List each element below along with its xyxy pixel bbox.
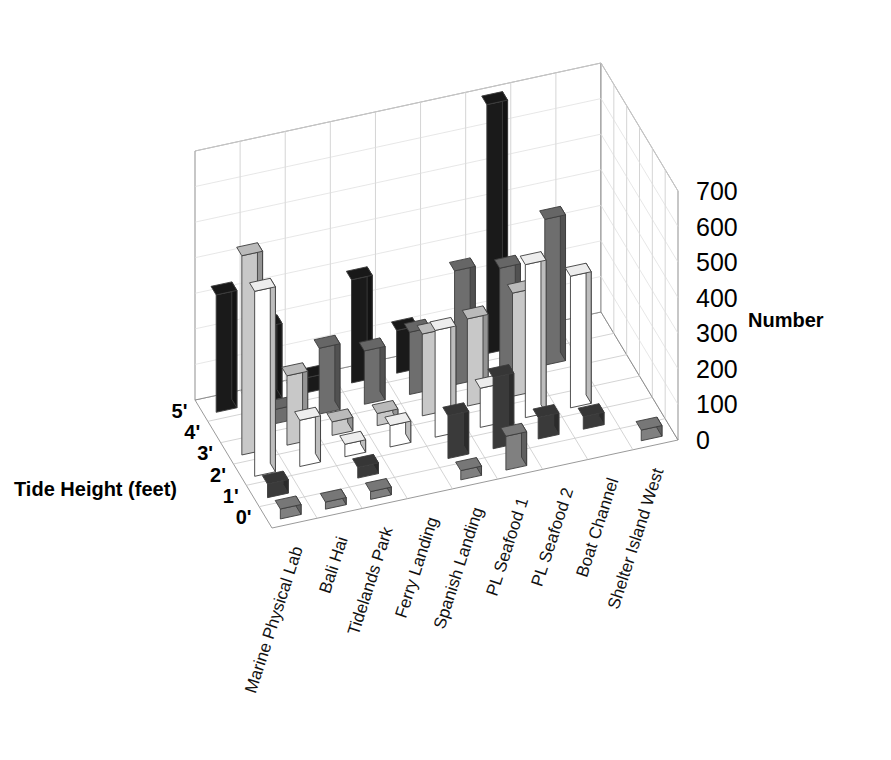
x-category-label: PL Seafood 1: [482, 495, 532, 598]
z-tick-label: 200: [696, 355, 738, 383]
y-tick-label: 5': [172, 400, 188, 422]
z-tick-label: 400: [696, 284, 738, 312]
chart-canvas: 7006005004003002001000 0'1'2'3'4'5' Mari…: [0, 0, 891, 760]
x-category-label: Tidelands Park: [344, 524, 397, 638]
y-axis-title: Tide Height (feet): [14, 478, 177, 500]
x-category-label: Bali Hai: [316, 534, 352, 596]
z-tick-label: 700: [696, 177, 738, 205]
bar-chart-3d: 7006005004003002001000 0'1'2'3'4'5' Mari…: [0, 0, 891, 760]
z-tick-label: 600: [696, 213, 738, 241]
y-tick-label: 4': [184, 421, 200, 443]
z-axis-ticks: 7006005004003002001000: [696, 177, 738, 454]
x-category-label: Ferry Landing: [391, 515, 441, 621]
z-tick-label: 300: [696, 319, 738, 347]
z-tick-label: 0: [696, 426, 710, 454]
x-category-label: Boat Channel: [572, 476, 622, 580]
x-category-label: Marine Physical Lab: [241, 544, 306, 695]
y-tick-label: 0': [236, 506, 252, 528]
x-category-label: PL Seafood 2: [528, 485, 578, 588]
z-axis-title: Number: [748, 309, 824, 331]
y-tick-label: 3': [197, 442, 213, 464]
z-tick-label: 100: [696, 390, 738, 418]
z-tick-label: 500: [696, 248, 738, 276]
y-tick-label: 1': [223, 485, 239, 507]
y-tick-label: 2': [210, 464, 226, 486]
